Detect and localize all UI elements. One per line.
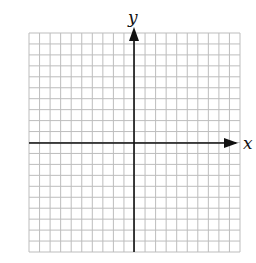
x-axis-label: x — [243, 133, 253, 153]
coordinate-plane: x y — [0, 0, 256, 263]
y-axis-label: y — [127, 7, 138, 27]
